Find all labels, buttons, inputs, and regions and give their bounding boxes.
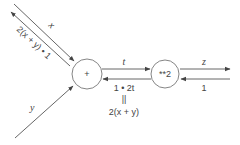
edge-t-gradient-label: 1 • 2t	[114, 83, 135, 93]
node-square-label: **2	[159, 69, 171, 79]
edge-z-gradient-label: 1	[201, 83, 206, 93]
edge-x-backward	[11, 12, 70, 66]
equals-sign: ||	[122, 94, 127, 104]
edge-x-gradient-label: 2(x + y) • 1	[15, 24, 54, 61]
node-add-label: +	[84, 69, 89, 79]
edge-x-label: x	[46, 19, 58, 31]
edge-y-forward	[15, 86, 73, 138]
gradient-expression: 2(x + y)	[109, 107, 139, 117]
edge-z-label: z	[201, 56, 206, 67]
computational-graph: x 2(x + y) • 1 y + t 1 • 2t || 2(x + y) …	[0, 0, 240, 145]
edge-y-label: y	[29, 102, 35, 113]
edge-t-label: t	[123, 56, 126, 67]
